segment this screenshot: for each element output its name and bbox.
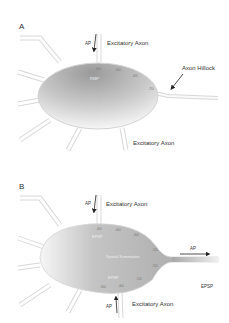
output-ap-label: AP bbox=[190, 246, 196, 251]
panel-a: A RMP -60 -60 -65 -70 AP Excitatory Axon… bbox=[18, 22, 218, 150]
potential-label: -65 bbox=[132, 73, 139, 78]
hillock-arrow-icon bbox=[172, 74, 183, 88]
ap-top-label: AP bbox=[85, 201, 91, 206]
spatial-summation-label: Spatial Summation bbox=[106, 254, 140, 259]
potential-label: -60 bbox=[96, 226, 103, 231]
top-axon-label-b: Excitatory Axon bbox=[106, 201, 147, 207]
neuron-summation-diagram: A RMP -60 -60 -65 -70 AP Excitatory Axon… bbox=[0, 0, 229, 323]
potential-label: -60 bbox=[118, 283, 125, 288]
bottom-axon-label: Excitatory Axon bbox=[133, 140, 174, 146]
ap-bottom-label: AP bbox=[106, 304, 112, 309]
potential-label: -60 bbox=[95, 66, 102, 71]
potential-label: -55 bbox=[136, 276, 143, 281]
potential-label: -55 bbox=[152, 263, 159, 268]
ap-arrow-top-icon bbox=[94, 195, 96, 211]
epsp-bottom-label: EPSP bbox=[108, 275, 119, 280]
cell-body-a bbox=[38, 63, 158, 129]
axon-b bbox=[172, 257, 218, 262]
potential-label: -60 bbox=[100, 284, 107, 289]
rmp-label: RMP bbox=[90, 76, 99, 81]
epsp-top-label: EPSP bbox=[92, 234, 103, 239]
axon-hillock-label: Axon Hillock bbox=[182, 65, 216, 71]
potential-label: -70 bbox=[148, 86, 155, 91]
panel-b-label: B bbox=[19, 182, 24, 191]
bottom-axon-label-b: Excitatory Axon bbox=[132, 301, 173, 307]
top-axon-label: Excitatory Axon bbox=[107, 40, 148, 46]
potential-label: -60 bbox=[115, 67, 122, 72]
ap-arrow-icon bbox=[94, 34, 96, 50]
panel-a-label: A bbox=[19, 22, 25, 31]
potential-label: -60 bbox=[133, 232, 140, 237]
ap-arrow-bottom-icon bbox=[116, 298, 117, 313]
panel-b: B EPSP Spatial Summation EPSP -60 -60 -6… bbox=[18, 182, 218, 318]
ap-label: AP bbox=[85, 41, 91, 46]
potential-label: -55 bbox=[152, 247, 159, 252]
potential-label: -60 bbox=[115, 227, 122, 232]
epsp-side-label: EPSP bbox=[201, 284, 213, 289]
